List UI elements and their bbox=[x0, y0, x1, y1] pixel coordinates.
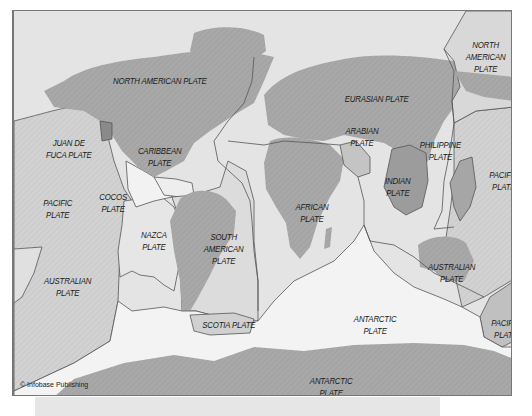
juan-de-fuca-plate bbox=[100, 121, 112, 141]
label-pacific-plate-west: PACIFICPLATE bbox=[43, 197, 72, 221]
label-australian-plate-east: AUSTRALIANPLATE bbox=[428, 261, 475, 285]
tectonic-plate-map: NORTH AMERICAN PLATE NORTHAMERICANPLATE … bbox=[12, 10, 512, 396]
page-shadow bbox=[35, 397, 440, 416]
label-caribbean-plate: CARIBBEANPLATE bbox=[138, 145, 182, 169]
label-african-plate: AFRICANPLATE bbox=[295, 201, 328, 225]
copyright-credit: © Infobase Publishing bbox=[20, 381, 88, 388]
label-philippine-plate: PHILIPPINEPLATE bbox=[420, 139, 461, 163]
label-pacific-plate-southeast: PACIFICPLATE bbox=[491, 317, 512, 341]
map-graphic bbox=[14, 11, 512, 396]
label-north-american-plate-east: NORTHAMERICANPLATE bbox=[466, 39, 506, 75]
label-cocos-plate: COCOSPLATE bbox=[99, 191, 127, 215]
label-nazca-plate: NAZCAPLATE bbox=[141, 229, 167, 253]
label-eurasian-plate: EURASIAN PLATE bbox=[345, 93, 409, 105]
label-indian-plate: INDIANPLATE bbox=[385, 175, 410, 199]
label-north-american-plate-west: NORTH AMERICAN PLATE bbox=[113, 75, 207, 87]
label-antarctic-plate-south: ANTARCTICPLATE bbox=[310, 375, 353, 396]
label-juan-de-fuca-plate: JUAN DEFUCA PLATE bbox=[46, 137, 92, 161]
label-arabian-plate: ARABIANPLATE bbox=[345, 125, 378, 149]
label-antarctic-plate-mid: ANTARCTICPLATE bbox=[354, 313, 397, 337]
label-pacific-plate-east: PACIFICPLATE bbox=[489, 169, 512, 193]
label-scotia-plate: SCOTIA PLATE bbox=[202, 319, 255, 331]
label-south-american-plate: SOUTHAMERICANPLATE bbox=[204, 231, 244, 267]
label-australian-plate-west: AUSTRALIANPLATE bbox=[44, 275, 91, 299]
